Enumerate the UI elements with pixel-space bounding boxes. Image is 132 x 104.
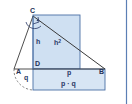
label-altitude-h: h (36, 38, 40, 45)
point-label-a: A (16, 68, 21, 75)
label-segment-p: p (67, 69, 71, 77)
geometry-figure: A B C D h h2 q p p · q (0, 0, 132, 104)
point-label-d: D (35, 60, 40, 67)
diagram-canvas: A B C D h h2 q p p · q (0, 0, 132, 104)
point-label-c: C (30, 7, 35, 14)
label-p-times-q: p · q (61, 80, 76, 88)
triangle-side-ac (14, 16, 33, 69)
label-h-squared-exponent: 2 (58, 38, 61, 44)
right-angle-dot-icon (37, 20, 39, 22)
label-segment-q: q (24, 74, 28, 82)
point-label-b: B (99, 68, 104, 75)
